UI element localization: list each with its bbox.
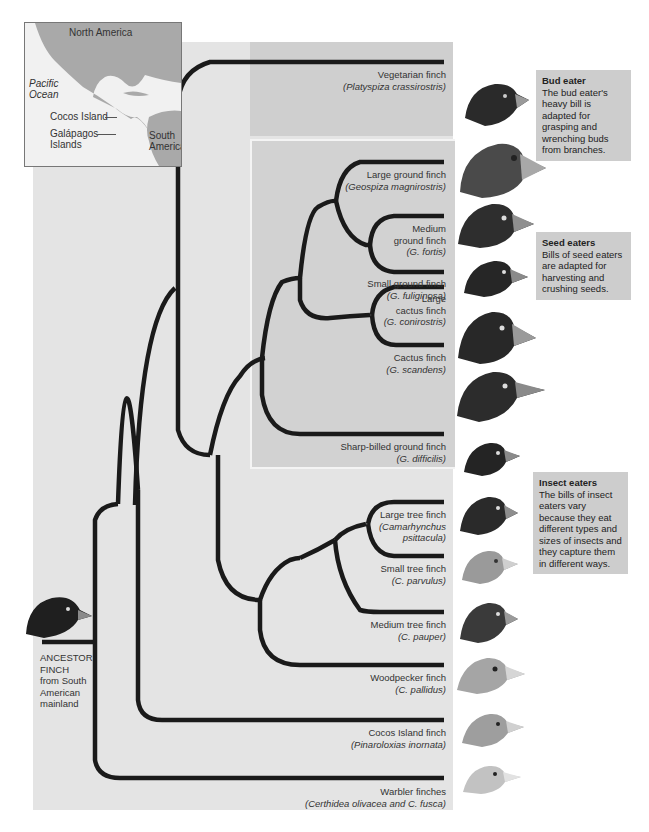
ancestor-finch-illustration [22,590,94,640]
vegetarian-finch-head-icon [463,78,529,128]
label-woodpecker-finch: Woodpecker finch(C. pallidus) [370,672,446,695]
woodpecker-finch-head-icon [455,652,527,696]
galapagos-pointer-line [96,134,116,135]
map-label-pacific-ocean: PacificOcean [29,78,58,100]
trunk [135,288,175,505]
medium-ground-finch-head-icon [456,198,536,250]
branch-cactus-node [300,278,370,318]
large-tree-finch-head-icon [458,491,520,537]
callout-seed-eaters: Seed eaters Bills of seed eaters are ada… [536,232,631,300]
small-tree-finch-head-icon [460,546,520,586]
branch-large-small-node [335,524,366,540]
label-sharp-billed-ground-finch: Sharp-billed ground finch(G. difficilis) [340,441,446,464]
label-medium-ground-finch: Mediumground finch(G. fortis) [394,223,446,258]
branch-tree-stem [218,455,260,600]
small-ground-finch-head-icon [462,255,530,299]
branch-tree-mid [300,540,335,558]
label-large-ground-finch: Large ground finch(Geospiza magnirostris… [345,169,446,192]
medium-tree-finch-head-icon [458,597,520,645]
branch-down-to-tree-node [178,290,210,455]
label-cocos-island-finch: Cocos Island finch(Pinaroloxias inornata… [351,727,446,750]
cocos-island-finch-head-icon [460,709,526,749]
cocos-pointer-line [105,117,117,118]
label-medium-tree-finch: Medium tree finch(C. pauper) [370,619,446,642]
label-large-tree-finch: Large tree finch(Camarhynchuspsittacula) [379,509,446,544]
branch-seed-stem [210,358,265,455]
label-cactus-finch: Cactus finch(G. scandens) [386,352,446,375]
branch-ground-node [300,201,336,278]
label-small-tree-finch: Small tree finch(C. parvulus) [381,563,446,586]
label-warbler-finches: Warbler finches(Certhidea olivacea and C… [305,786,446,809]
sharp-billed-ground-finch-head-icon [462,438,522,478]
callout-bud-eater: Bud eater The bud eater's heavy bill is … [536,70,631,161]
warbler-finch-head-icon [461,762,523,796]
branch-tree-upper [260,558,300,600]
large-ground-finch-head-icon [458,138,548,200]
cactus-finch-head-icon [455,366,547,424]
map-label-north-america: North America [69,27,132,38]
large-cactus-finch-head-icon [456,306,538,366]
label-vegetarian-finch: Vegetarian finch(Platyspiza crassirostri… [343,69,446,92]
branch-root-up [95,504,118,642]
label-large-cactus-finch-text: Largecactus finch(G. conirostris) [384,293,446,328]
branch-seed-upper [262,278,300,358]
map-inset: North America PacificOcean Cocos Island … [24,22,182,167]
map-label-cocos-island: Cocos Island [50,111,108,122]
branch-warbler [95,642,444,778]
ancestor-label: ANCESTOR FINCH from South American mainl… [40,652,100,710]
map-label-galapagos: GalápagosIslands [50,128,98,150]
branch-medium-small-node [336,201,370,245]
map-label-south-america: SouthAmerica [149,130,182,152]
callout-insect-eaters: Insect eaters The bills of insect eaters… [533,472,628,574]
